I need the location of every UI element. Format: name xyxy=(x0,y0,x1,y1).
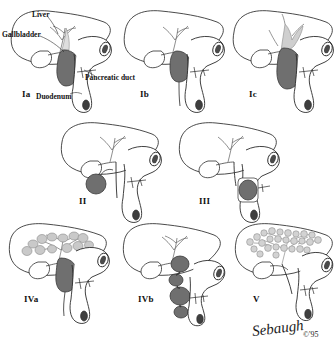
distal-cbd-Ib xyxy=(179,82,180,106)
panel-label-Ib: Ib xyxy=(140,90,149,99)
distal-cbd-IVa xyxy=(64,292,65,316)
panel-V xyxy=(235,224,334,321)
distal-duodenum-lumen-Ib xyxy=(196,100,203,110)
todani-classification-figure xyxy=(0,0,335,355)
distal-duodenum-lumen-IVa xyxy=(81,311,88,321)
anatomy-label-duodenum: Duodenum xyxy=(36,93,71,101)
distal-duodenum-lumen-Ic xyxy=(305,100,312,110)
copyright-notice: ©'95 xyxy=(303,330,319,339)
panel-IVb xyxy=(123,224,226,326)
distal-duodenum-lumen-IVb xyxy=(197,314,203,323)
panel-II xyxy=(61,123,162,223)
panel-label-Ic: Ic xyxy=(249,90,257,99)
distal-duodenum-lumen-II xyxy=(133,210,140,220)
anatomy-label-gallbladder: Gallbladder xyxy=(2,31,41,39)
panel-label-II: II xyxy=(79,197,87,206)
panel-label-III: III xyxy=(199,197,210,206)
anatomy-label-liver: Liver xyxy=(32,11,50,19)
choledochocele-III xyxy=(239,180,257,200)
panel-III xyxy=(179,123,280,223)
panel-label-Ia: Ia xyxy=(22,90,31,99)
distal-duodenum-lumen-III xyxy=(251,210,258,220)
diverticulum-cyst-II xyxy=(86,174,106,194)
panel-label-IVa: IVa xyxy=(24,295,39,304)
distal-duodenum-lumen-V xyxy=(305,309,311,318)
panel-label-V: V xyxy=(253,295,260,304)
anatomy-label-pancreatic_duct: Pancreatic duct xyxy=(85,74,135,82)
panel-label-IVb: IVb xyxy=(138,295,154,304)
pancreatic-duct-III xyxy=(258,184,270,192)
extrahepatic-cysts-IVb xyxy=(169,256,190,318)
distal-duodenum-lumen-Ia xyxy=(83,100,90,110)
panel-IVa xyxy=(9,224,110,324)
